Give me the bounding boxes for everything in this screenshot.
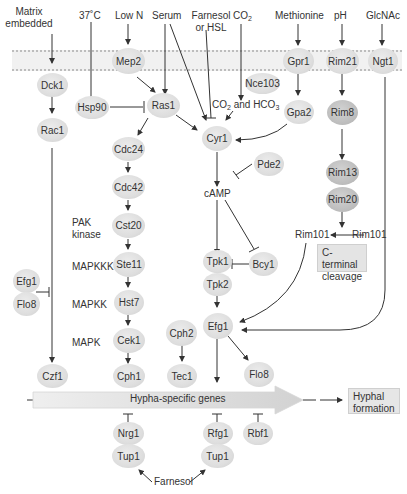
label-camp: cAMP bbox=[204, 188, 231, 200]
node-ste11: Ste11 bbox=[113, 252, 145, 277]
input-co2: CO2 bbox=[233, 10, 252, 25]
node-tpk1: Tpk1 bbox=[203, 250, 232, 273]
subscript: 3 bbox=[275, 104, 279, 111]
label-hypha-specific-genes: Hypha-specific genes bbox=[130, 393, 226, 404]
node-rbf1: Rbf1 bbox=[243, 422, 273, 445]
input-37c: 37˚C bbox=[79, 10, 101, 22]
node-rac1: Rac1 bbox=[37, 118, 68, 142]
node-flo8-left: Flo8 bbox=[13, 292, 40, 316]
label-rim101-active: Rim101 bbox=[295, 229, 329, 241]
node-nrg1: Nrg1 bbox=[113, 422, 144, 445]
node-pde2: Pde2 bbox=[254, 152, 284, 176]
node-czf1: Czf1 bbox=[37, 364, 68, 388]
node-ras1: Ras1 bbox=[147, 93, 180, 118]
input-low-n: Low N bbox=[115, 10, 143, 22]
input-ph: pH bbox=[334, 10, 347, 22]
text: CO bbox=[212, 99, 227, 110]
input-farnesol-hsl: Farnesol or HSL bbox=[186, 10, 236, 34]
text: and HCO bbox=[231, 99, 275, 110]
input-matrix-embedded: Matrix embedded bbox=[4, 6, 54, 30]
label-hyphal-formation: Hyphal formation bbox=[348, 388, 400, 414]
text: kinase bbox=[72, 229, 101, 241]
node-cdc42: Cdc42 bbox=[112, 175, 145, 199]
node-flo8: Flo8 bbox=[244, 362, 274, 387]
label-c-terminal-cleavage: C-terminal cleavage bbox=[317, 244, 367, 272]
text: formation bbox=[353, 403, 395, 415]
node-tup1-b: Tup1 bbox=[201, 444, 234, 468]
node-rim21: Rim21 bbox=[326, 48, 359, 74]
node-cyr1: Cyr1 bbox=[202, 126, 232, 151]
node-cst20: Cst20 bbox=[112, 213, 145, 238]
input-label: CO bbox=[233, 10, 248, 21]
node-efg1-left: Efg1 bbox=[13, 269, 40, 293]
node-dck1: Dck1 bbox=[37, 73, 68, 97]
input-label: or HSL bbox=[186, 22, 236, 34]
node-cdc24: Cdc24 bbox=[112, 137, 145, 161]
label-rim101-precursor: Rim101 bbox=[352, 229, 386, 241]
pathway-diagram: Matrix embedded 37˚C Low N Serum Farneso… bbox=[0, 0, 407, 494]
label-mapkk: MAPKK bbox=[72, 299, 107, 311]
input-methionine: Methionine bbox=[275, 10, 324, 22]
label-mapkkk: MAPKKK bbox=[72, 261, 114, 273]
input-label: Matrix bbox=[4, 6, 54, 18]
label-farnesol-bottom: Farnesol bbox=[154, 476, 193, 488]
label-pak-kinase: PAK kinase bbox=[72, 217, 101, 241]
node-tup1-a: Tup1 bbox=[112, 444, 145, 468]
subscript: 2 bbox=[248, 15, 252, 22]
input-serum: Serum bbox=[152, 10, 181, 22]
text: Hyphal bbox=[353, 391, 395, 403]
node-gpr1: Gpr1 bbox=[283, 48, 314, 74]
node-rfg1: Rfg1 bbox=[203, 422, 233, 445]
node-mep2: Mep2 bbox=[112, 48, 145, 74]
label-co2-hco3: CO2 and HCO3 bbox=[212, 99, 279, 114]
node-cph1: Cph1 bbox=[113, 364, 145, 388]
node-rim13: Rim13 bbox=[326, 160, 359, 185]
input-glcnac: GlcNAc bbox=[366, 10, 400, 22]
input-label: embedded bbox=[4, 18, 54, 30]
node-cek1: Cek1 bbox=[113, 328, 145, 353]
node-tpk2: Tpk2 bbox=[203, 273, 232, 296]
node-gpa2: Gpa2 bbox=[284, 100, 314, 124]
node-cph2: Cph2 bbox=[166, 320, 197, 346]
input-label: Farnesol bbox=[186, 10, 236, 22]
node-bcy1: Bcy1 bbox=[249, 252, 278, 276]
node-rim20: Rim20 bbox=[326, 187, 359, 212]
node-tec1: Tec1 bbox=[167, 364, 197, 388]
text: PAK bbox=[72, 217, 101, 229]
node-hsp90: Hsp90 bbox=[75, 96, 109, 119]
node-hst7: Hst7 bbox=[114, 290, 144, 315]
text: cleavage bbox=[322, 271, 362, 283]
node-nce103: Nce103 bbox=[245, 73, 280, 94]
node-rim8: Rim8 bbox=[327, 100, 358, 125]
node-efg1: Efg1 bbox=[203, 313, 233, 339]
label-mapk: MAPK bbox=[72, 337, 100, 349]
text: C-terminal bbox=[322, 247, 362, 271]
node-ngt1: Ngt1 bbox=[368, 48, 398, 74]
